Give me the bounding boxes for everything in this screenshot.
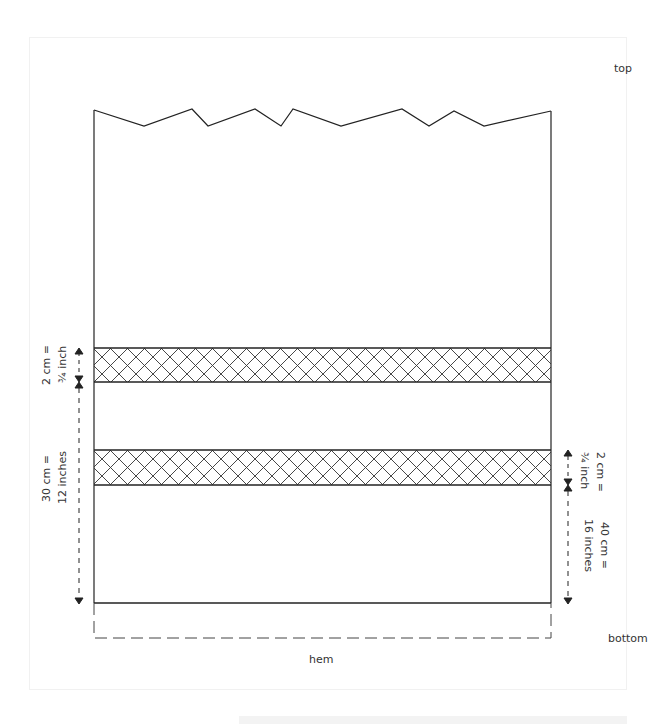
pattern-band-lower — [94, 450, 551, 485]
left-gap-measure-arrow — [75, 382, 83, 604]
pattern-band-upper — [94, 348, 551, 382]
garment-top-edge — [94, 109, 551, 126]
right-band-measure-arrow — [564, 450, 572, 485]
right-gap-measure-line2: 16 inches — [582, 519, 595, 572]
left-band-measure-line1: 2 cm = — [40, 345, 53, 385]
right-band-measure-line1: 2 cm = — [594, 452, 607, 492]
left-gap-measure-line2: 12 inches — [56, 451, 69, 504]
left-band-measure-line2: ¾ inch — [56, 346, 69, 383]
left-band-measure-arrow — [75, 348, 83, 382]
bottom-label: bottom — [608, 632, 648, 645]
left-gap-measure-line1: 30 cm = — [40, 455, 53, 502]
right-gap-measure-arrow — [564, 485, 572, 604]
top-label: top — [614, 62, 632, 75]
hem-label: hem — [309, 653, 333, 666]
right-gap-measure-line1: 40 cm = — [598, 522, 611, 569]
right-band-measure-line2: ¾ inch — [578, 452, 591, 489]
hem-dashed-outline — [94, 603, 551, 638]
